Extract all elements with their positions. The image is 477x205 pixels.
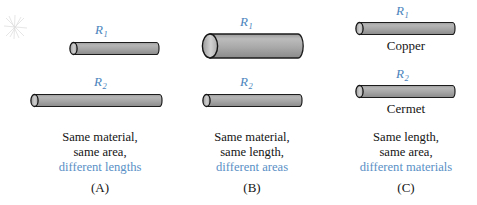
resistor-label-c1-text: R bbox=[396, 3, 404, 18]
panel-letter-b: (B) bbox=[185, 181, 319, 194]
material-label-copper: Copper bbox=[354, 39, 458, 52]
caption-b-line3: different areas bbox=[185, 160, 319, 175]
caption-a: Same material, same area, different leng… bbox=[34, 130, 166, 176]
resistor-label-a1: R1 bbox=[95, 23, 108, 38]
caption-b-line2: same length, bbox=[185, 145, 319, 160]
cylinder-b1 bbox=[200, 32, 306, 64]
caption-c-line1: Same length, bbox=[338, 130, 474, 145]
resistor-label-c1-sub: 1 bbox=[404, 10, 408, 20]
resistor-label-a2: R2 bbox=[94, 75, 107, 90]
resistor-label-c2: R2 bbox=[396, 67, 409, 82]
resistance-comparison-figure: R1 R2 bbox=[0, 0, 477, 205]
resistor-label-c2-text: R bbox=[396, 66, 404, 81]
resistor-label-a1-text: R bbox=[95, 22, 103, 37]
resistor-label-b1-text: R bbox=[240, 14, 248, 29]
resistor-label-a2-sub: 2 bbox=[102, 81, 106, 91]
caption-c-line2: same area, bbox=[338, 145, 474, 160]
caption-a-line2: same area, bbox=[34, 145, 166, 160]
caption-c-line3: different materials bbox=[338, 160, 474, 175]
resistor-label-b2-sub: 2 bbox=[248, 81, 252, 91]
cylinder-c1 bbox=[354, 21, 458, 38]
panel-letter-c: (C) bbox=[338, 181, 474, 194]
resistor-label-b2: R2 bbox=[240, 75, 253, 90]
resistor-label-b1: R1 bbox=[240, 15, 253, 30]
resistor-label-a1-sub: 1 bbox=[103, 29, 107, 39]
caption-b: Same material, same length, different ar… bbox=[185, 130, 319, 176]
caption-a-line3: different lengths bbox=[34, 160, 166, 175]
resistor-label-a2-text: R bbox=[94, 74, 102, 89]
material-label-cermet: Cermet bbox=[354, 102, 458, 115]
cylinder-c2 bbox=[354, 84, 458, 101]
caption-c: Same length, same area, different materi… bbox=[338, 130, 474, 176]
caption-a-line1: Same material, bbox=[34, 130, 166, 145]
resistor-label-b1-sub: 1 bbox=[248, 21, 252, 31]
cylinder-b2 bbox=[201, 93, 305, 110]
cylinder-a2 bbox=[29, 93, 165, 110]
cylinder-a1 bbox=[68, 41, 162, 58]
resistor-label-c1: R1 bbox=[396, 4, 409, 19]
panel-letter-a: (A) bbox=[34, 181, 166, 194]
resistor-label-c2-sub: 2 bbox=[404, 73, 408, 83]
resistor-label-b2-text: R bbox=[240, 74, 248, 89]
scan-smudge-icon bbox=[2, 14, 28, 40]
caption-b-line1: Same material, bbox=[185, 130, 319, 145]
